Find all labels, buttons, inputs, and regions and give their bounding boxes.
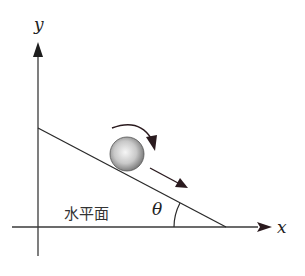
- y-axis-label: y: [33, 14, 44, 34]
- incline-diagram: y x 水平面 θ: [0, 0, 305, 276]
- x-axis-arrowhead-icon: [257, 222, 272, 232]
- x-axis-label: x: [277, 217, 287, 237]
- y-axis-arrowhead-icon: [33, 42, 43, 57]
- angle-arc: [174, 203, 180, 227]
- y-axis: [33, 42, 43, 256]
- motion-arrow-icon: [150, 168, 188, 188]
- angle-label: θ: [152, 199, 162, 219]
- surface-label: 水平面: [64, 205, 109, 223]
- x-axis: [12, 222, 272, 232]
- ball: [110, 137, 144, 171]
